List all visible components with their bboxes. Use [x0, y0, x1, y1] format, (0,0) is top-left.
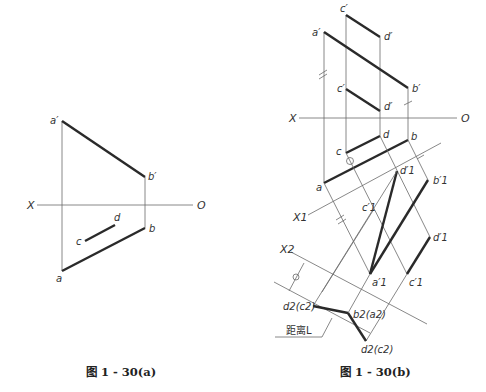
- label-d-prime-mid: d′: [384, 101, 393, 112]
- tick-mark: [336, 215, 344, 220]
- line-a-prime-b-prime-b: [324, 32, 408, 88]
- label-a-prime-b: a′: [312, 27, 321, 38]
- label-b: b: [149, 223, 155, 234]
- label-b-prime-b: b′: [412, 83, 421, 94]
- tick-mark: [319, 70, 327, 75]
- tick-mark: [319, 74, 327, 79]
- projector-c-c1: [346, 153, 407, 274]
- line-cd-b: [346, 136, 380, 153]
- label-d-prime-top: d′: [384, 31, 393, 42]
- label-c: c: [76, 236, 82, 247]
- axis-label-x: X: [26, 199, 35, 212]
- line-cd: [85, 225, 115, 241]
- label-d2c2-left: d2(c2): [283, 301, 315, 312]
- label-a1-prime: a′1: [372, 277, 387, 288]
- projector-a-a1: [324, 183, 370, 274]
- projection-drawing: a′ b′ X O c d a b 图 1 - 30(a) c′ d′ a′ b…: [0, 0, 486, 392]
- label-c-prime-top: c′: [340, 3, 348, 14]
- label-c-b: c: [336, 146, 342, 157]
- axis-label-o-b: O: [461, 112, 470, 125]
- label-d2c2-bottom: d2(c2): [361, 344, 393, 355]
- caption-a: 图 1 - 30(a): [86, 365, 156, 379]
- line-b1-a1: [370, 180, 428, 274]
- label-b1-prime: b′1: [433, 175, 448, 186]
- label-distance: 距离L: [286, 324, 312, 336]
- label-b-prime: b′: [148, 171, 157, 182]
- label-d-b: d: [383, 129, 390, 140]
- dimension-line: [289, 263, 304, 291]
- label-b2a2: b2(a2): [353, 309, 386, 320]
- line-c-prime-d-prime-top: [346, 15, 380, 37]
- distance-leader: [322, 318, 332, 337]
- line-ab: [62, 228, 145, 271]
- label-c1-prime-low: c′1: [409, 277, 423, 288]
- caption-b: 图 1 - 30(b): [340, 365, 411, 379]
- line-c-prime-d-prime-mid: [346, 89, 380, 111]
- figure-a: [37, 121, 193, 271]
- projector-a1-b2: [348, 274, 370, 313]
- label-a-prime: a′: [50, 115, 59, 126]
- tick-mark: [338, 219, 346, 224]
- axis-label-o: O: [197, 199, 206, 212]
- axis-label-x1: X1: [292, 211, 308, 224]
- line-d1-a1: [370, 171, 397, 274]
- label-c-prime-mid: c′: [337, 83, 345, 94]
- label-a: a: [56, 273, 62, 284]
- label-b-b: b: [411, 131, 417, 142]
- label-a-b: a: [316, 182, 322, 193]
- figure-b: [274, 15, 457, 341]
- label-d1-prime-low: d′1: [433, 232, 448, 243]
- circle-marker: [293, 274, 299, 280]
- axis-label-x2: X2: [279, 243, 295, 256]
- label-d: d: [114, 212, 121, 223]
- line-d1-c1: [407, 237, 430, 274]
- projector-c1-top: [322, 209, 374, 292]
- axis-label-x-b: X: [288, 112, 297, 125]
- label-c1-prime-top: c′1: [362, 202, 376, 213]
- line-a-prime-b-prime: [62, 121, 145, 177]
- label-d1-prime-top: d′1: [400, 165, 415, 176]
